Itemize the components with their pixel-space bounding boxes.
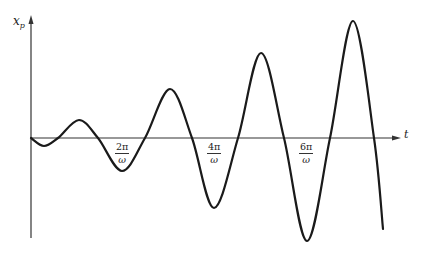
tick-2pi-over-omega: 2π ω	[115, 142, 129, 165]
resonance-plot	[0, 0, 424, 257]
y-axis-label: xp	[13, 14, 25, 30]
x-axis-arrow-icon	[392, 136, 401, 141]
tick-6pi-over-omega: 6π ω	[299, 142, 313, 165]
y-axis-arrow-icon	[29, 15, 34, 24]
tick-4pi-over-omega: 4π ω	[207, 142, 221, 165]
x-axis-label: t	[404, 128, 408, 141]
xp-curve	[31, 21, 383, 241]
